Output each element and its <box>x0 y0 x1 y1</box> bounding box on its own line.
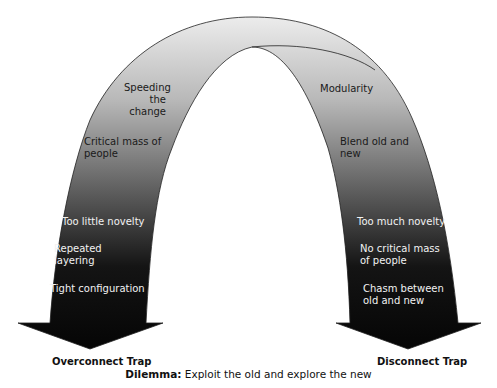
label-modularity: Modularity <box>320 83 373 95</box>
disconnect-trap-label: Disconnect Trap <box>377 356 467 367</box>
caption-bold: Dilemma: <box>125 368 181 380</box>
label-speeding-the-change: Speeding the change <box>124 82 166 118</box>
label-too-little-novelty: Too little novelty <box>62 216 144 228</box>
dilemma-caption: Dilemma: Exploit the old and explore the… <box>0 368 497 380</box>
label-critical-mass: Critical mass of people <box>84 136 161 160</box>
label-no-critical-mass: No critical mass of people <box>360 243 440 267</box>
label-blend-old-and-new: Blend old and new <box>340 136 409 160</box>
arch-diagram <box>0 0 497 388</box>
caption-text: Exploit the old and explore the new <box>185 368 372 380</box>
overconnect-trap-label: Overconnect Trap <box>52 356 151 367</box>
label-too-much-novelty: Too much novelty <box>357 216 445 228</box>
label-chasm: Chasm between old and new <box>363 283 444 307</box>
label-repeated-layering: Repeated layering <box>54 243 102 267</box>
label-tight-configuration: Tight configuration <box>50 283 145 295</box>
